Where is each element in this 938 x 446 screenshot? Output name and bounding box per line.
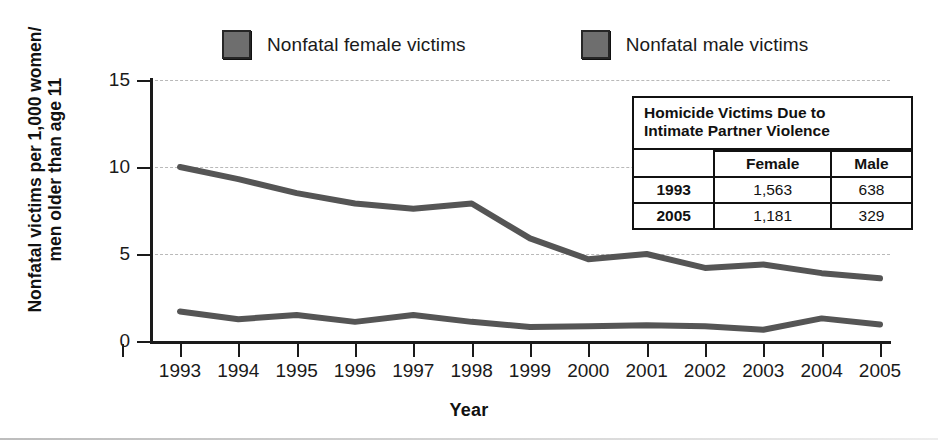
y-axis-title-line1: Nonfatal victims per 1,000 women/ (26, 20, 46, 320)
inset-title-line1: Homicide Victims Due to (644, 104, 903, 122)
legend-item-male: Nonfatal male victims (581, 30, 809, 59)
gridline-5 (150, 254, 890, 255)
x-tick-2005 (822, 344, 824, 357)
x-tick-1996 (297, 344, 299, 357)
x-tick-2004 (763, 344, 765, 357)
y-tick-label-10: 10 (109, 156, 130, 178)
legend-swatch-male-icon (581, 30, 610, 59)
inset-corner-cell (634, 151, 714, 177)
inset-table: Homicide Victims Due to Intimate Partner… (632, 96, 913, 230)
table-header-row: Female Male (634, 151, 911, 177)
x-tick-1993 (122, 344, 124, 357)
footer-rule (0, 438, 938, 440)
x-tick-2002 (647, 344, 649, 357)
x-tick-label-2005: 2005 (851, 360, 909, 382)
y-tick-0 (137, 341, 151, 343)
chart-figure: Nonfatal female victims Nonfatal male vi… (0, 0, 938, 446)
legend-item-female: Nonfatal female victims (222, 30, 466, 59)
inset-row-year-2005: 2005 (634, 203, 714, 228)
y-tick-label-5: 5 (119, 243, 130, 265)
table-row: 1993 1,563 638 (634, 177, 911, 203)
x-tick-label-1994: 1994 (209, 360, 267, 382)
x-tick-label-2001: 2001 (618, 360, 676, 382)
inset-cell-2005-male: 329 (831, 203, 911, 228)
legend-label-male: Nonfatal male victims (626, 34, 809, 56)
x-tick-1997 (355, 344, 357, 357)
y-axis-title-line2: men older than age 11 (46, 20, 66, 320)
inset-table-title: Homicide Victims Due to Intimate Partner… (634, 98, 911, 150)
chart-legend: Nonfatal female victims Nonfatal male vi… (222, 30, 808, 59)
x-tick-1994 (180, 344, 182, 357)
gridline-15 (150, 80, 890, 81)
x-tick-1995 (238, 344, 240, 357)
x-tick-label-2002: 2002 (676, 360, 734, 382)
inset-table-grid: Female Male 1993 1,563 638 2005 1,181 32… (634, 150, 911, 228)
legend-label-female: Nonfatal female victims (267, 34, 466, 56)
x-tick-label-1995: 1995 (268, 360, 326, 382)
inset-header-male: Male (831, 151, 911, 177)
inset-cell-2005-female: 1,181 (714, 203, 831, 228)
inset-title-line2: Intimate Partner Violence (644, 122, 903, 140)
x-tick-end (880, 344, 882, 357)
line-series-male (180, 311, 880, 329)
y-tick-15 (137, 80, 151, 82)
y-axis-title: Nonfatal victims per 1,000 women/ men ol… (26, 20, 65, 320)
table-row: 2005 1,181 329 (634, 203, 911, 228)
x-tick-label-1999: 1999 (501, 360, 559, 382)
x-tick-2003 (705, 344, 707, 357)
x-axis-line (150, 341, 891, 344)
x-tick-label-2003: 2003 (734, 360, 792, 382)
x-tick-label-2000: 2000 (559, 360, 617, 382)
x-tick-1999 (472, 344, 474, 357)
x-tick-label-2004: 2004 (793, 360, 851, 382)
x-tick-2001 (588, 344, 590, 357)
x-tick-label-1993: 1993 (151, 360, 209, 382)
inset-header-female: Female (714, 151, 831, 177)
inset-cell-1993-female: 1,563 (714, 177, 831, 203)
x-tick-label-1997: 1997 (384, 360, 442, 382)
x-tick-label-1998: 1998 (443, 360, 501, 382)
x-axis-title: Year (0, 400, 938, 421)
legend-swatch-female-icon (222, 30, 251, 59)
inset-cell-1993-male: 638 (831, 177, 911, 203)
y-axis-line (150, 78, 153, 344)
x-tick-1998 (413, 344, 415, 357)
y-tick-label-15: 15 (109, 69, 130, 91)
y-tick-5 (137, 254, 151, 256)
y-tick-10 (137, 167, 151, 169)
inset-row-year-1993: 1993 (634, 177, 714, 203)
x-tick-2000 (530, 344, 532, 357)
x-tick-label-1996: 1996 (326, 360, 384, 382)
